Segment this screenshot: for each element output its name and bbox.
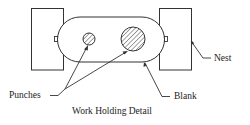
nest-leader bbox=[191, 41, 211, 58]
diagram-caption: Work Holding Detail bbox=[72, 107, 152, 117]
blank-outline bbox=[58, 17, 165, 62]
large-punch bbox=[121, 27, 145, 51]
right-locator-tab bbox=[165, 37, 168, 42]
small-punch bbox=[83, 33, 95, 45]
punches-label: Punches bbox=[9, 91, 41, 101]
left-locator-tab bbox=[55, 37, 58, 42]
blank-label: Blank bbox=[174, 92, 197, 102]
nest-label: Nest bbox=[214, 54, 231, 64]
